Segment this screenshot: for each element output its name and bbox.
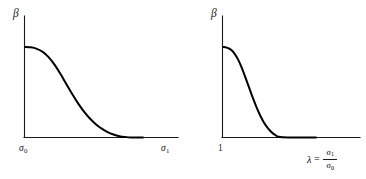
left-sigma-end-glyph: σ — [161, 143, 166, 153]
denominator-subscript: 0 — [331, 164, 334, 171]
figure-container: β σ0 σ1 β 1 λ = σ1 — [0, 0, 366, 179]
left-sigma-glyph: σ — [19, 143, 24, 153]
sigma-ratio-fraction: σ1 σ0 — [323, 148, 337, 172]
equals-glyph: = — [314, 155, 319, 165]
left-y-axis-label: β — [13, 8, 19, 20]
left-sigma-subscript: 0 — [24, 147, 28, 154]
fraction-numerator: σ1 — [325, 148, 335, 159]
numerator-subscript: 1 — [331, 150, 334, 157]
chart-left-plot — [0, 0, 183, 179]
chart-right-plot — [183, 0, 366, 179]
left-x-axis-start-label: σ0 — [19, 144, 27, 155]
right-beta-curve — [223, 47, 316, 138]
fraction-denominator: σ0 — [325, 161, 335, 172]
lambda-glyph: λ — [307, 155, 311, 165]
chart-panel-right: β 1 λ = σ1 σ0 — [183, 0, 366, 179]
right-x-axis-start-label: 1 — [218, 144, 223, 154]
right-y-axis-label: β — [211, 8, 217, 20]
left-sigma-end-subscript: 1 — [166, 147, 170, 154]
numerator-sigma-glyph: σ — [326, 147, 330, 157]
denominator-sigma-glyph: σ — [326, 160, 330, 170]
left-x-axis-end-label: σ1 — [161, 144, 169, 155]
right-x-axis-expression: λ = σ1 σ0 — [307, 148, 337, 172]
chart-panel-left: β σ0 σ1 — [0, 0, 183, 179]
left-beta-curve — [25, 47, 143, 138]
